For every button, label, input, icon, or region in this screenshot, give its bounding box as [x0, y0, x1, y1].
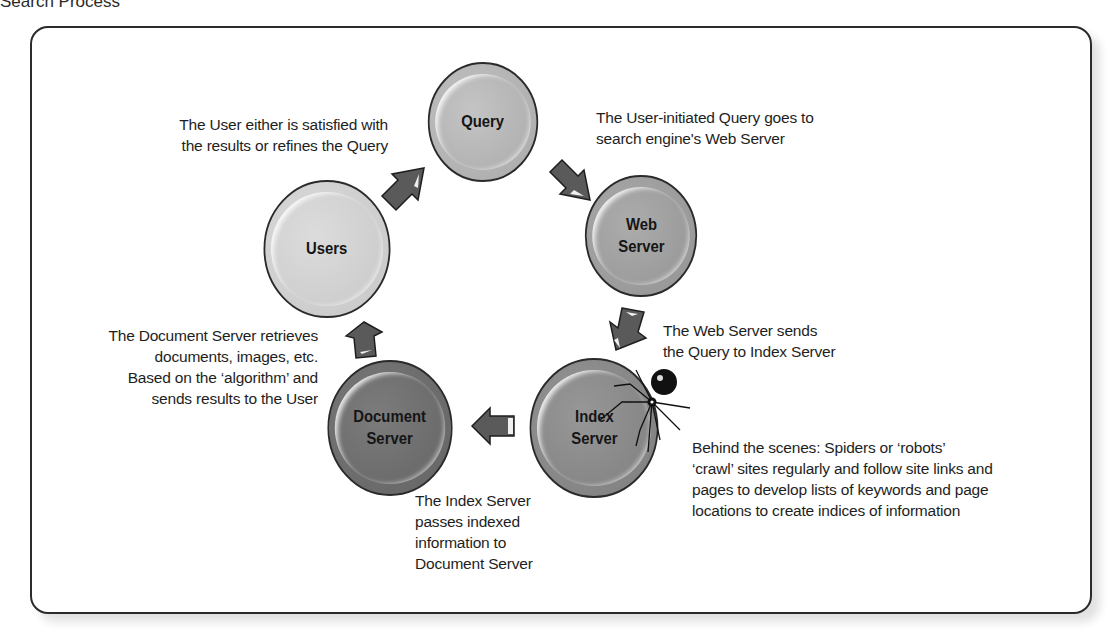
node-users-label: Users — [306, 238, 347, 260]
node-document-server: Document Server — [327, 360, 452, 496]
node-document-server-label: Document Server — [354, 406, 427, 450]
node-users: Users — [264, 180, 391, 318]
arrow-doc-to-users-icon — [342, 320, 386, 360]
annotation-query-to-web: The User-initiated Query goes to search … — [596, 107, 916, 149]
arrow-index-to-doc-icon — [470, 404, 516, 448]
annotation-doc-to-users: The Document Server retrieves documents,… — [30, 325, 318, 409]
arrow-users-to-query-icon — [378, 160, 430, 212]
annotation-index-to-doc: The Index Server passes indexed informat… — [415, 490, 615, 574]
node-query-label: Query — [462, 111, 505, 133]
arrow-web-to-index-icon — [604, 306, 650, 352]
node-web-server: Web Server — [585, 175, 697, 297]
page-title: Search Process — [0, 0, 120, 12]
node-query: Query — [428, 62, 538, 182]
arrow-query-to-web-icon — [546, 156, 596, 206]
annotation-spiders: Behind the scenes: Spiders or ‘robots’ ‘… — [692, 437, 1092, 521]
annotation-users-to-query: The User either is satisfied with the re… — [100, 114, 388, 156]
node-web-server-label: Web Server — [618, 214, 664, 258]
annotation-web-to-index: The Web Server sends the Query to Index … — [663, 320, 923, 362]
